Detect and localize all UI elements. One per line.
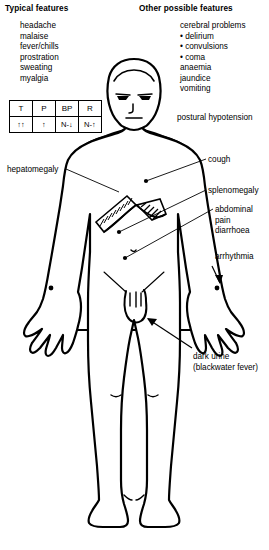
dot-hepatomegaly-hand [49,286,54,291]
annotation-line: abdominal [215,205,253,216]
dot-arrhythmia-hand [215,286,220,291]
human-body-diagram [0,0,269,550]
annotation-dark-urine: dark urine (blackwater fever) [193,352,258,373]
annotation-line: diarrhoea [215,226,253,237]
body-silhouette-refined [24,122,244,527]
annotation-line: dark urine [193,352,258,363]
dot-cough [144,179,148,183]
annotation-line: (blackwater fever) [193,363,258,374]
ankle-markings [124,495,144,500]
annotation-splenomegaly: splenomegaly [208,186,259,197]
annotation-hepatomegaly: hepatomegaly [7,165,58,176]
dot-abdominal [123,256,127,260]
annotation-abdominal-symptoms: abdominal pain diarrhoea [215,205,253,237]
annotation-arrhythmia: arrhythmia [215,252,254,263]
annotation-line: pain [215,216,253,227]
annotation-cough: cough [208,155,230,166]
annotation-postural-hypotension: postural hypotension [177,113,253,124]
dot-splenomegaly [117,230,121,234]
